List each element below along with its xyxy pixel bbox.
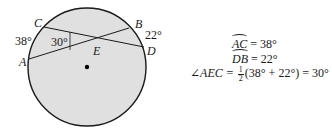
angle-aec-rhs: (38° + 22°) = 30° xyxy=(245,66,329,80)
arc-db-name: DB xyxy=(232,53,248,65)
fraction-one-half: 12 xyxy=(238,66,244,83)
fraction-denominator: 2 xyxy=(238,75,244,83)
arc-db-value: = 22° xyxy=(248,52,278,66)
point-label-a: A xyxy=(19,56,26,68)
point-label-d: D xyxy=(147,45,156,57)
point-label-c: C xyxy=(34,17,42,29)
circle-figure: C A B D E 38° 22° 30° xyxy=(0,0,170,128)
equation-arc-db: DB = 22° xyxy=(232,53,278,65)
point-label-b: B xyxy=(135,18,142,30)
point-label-e: E xyxy=(93,45,100,57)
angle-measure: 30° xyxy=(51,36,68,48)
arc-ac-measure: 38° xyxy=(15,35,32,47)
arc-db-measure: 22° xyxy=(145,29,162,41)
angle-aec-lhs: ∠AEC = xyxy=(190,66,237,80)
center-dot xyxy=(85,65,89,69)
equation-angle-aec: ∠AEC = 12(38° + 22°) = 30° xyxy=(190,66,329,83)
arc-ac-value: = 38° xyxy=(247,37,277,51)
